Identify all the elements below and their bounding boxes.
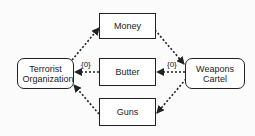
node-money: Money (99, 13, 156, 39)
edge-guns-to-terrorist (74, 85, 99, 114)
node-label: Butter (115, 67, 139, 77)
edge-terrorist-to-money (72, 28, 99, 60)
edge-label-weapons-butter: {0} (167, 60, 177, 69)
edge-weapons-to-guns (157, 79, 186, 113)
node-butter: Butter (99, 58, 156, 86)
node-label: Terrorist Organization (23, 64, 69, 84)
edge-money-to-weapons (155, 30, 184, 64)
edge-label-butter-terrorist: {0} (81, 60, 91, 69)
node-label: Money (114, 21, 141, 31)
flow-diagram: Terrorist Organization Money Butter Guns… (0, 0, 255, 136)
node-guns: Guns (99, 98, 156, 126)
node-label: Guns (117, 107, 139, 117)
node-weapons-cartel: Weapons Cartel (185, 58, 245, 89)
node-label: Weapons Cartel (193, 64, 237, 84)
node-terrorist-organization: Terrorist Organization (17, 58, 74, 89)
